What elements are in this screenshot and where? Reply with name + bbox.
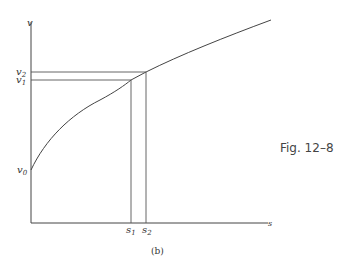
v-s-curve (31, 20, 271, 170)
s1-label: s1 (126, 224, 136, 237)
s2-label: s2 (142, 224, 152, 237)
x-axis-label: s (268, 219, 272, 228)
subfigure-caption: (b) (151, 246, 164, 256)
v0-label: v0 (17, 164, 28, 177)
velocity-position-diagram: v s v2 v1 v0 s1 s2 (b) Fig. 12–8 (0, 0, 337, 274)
figure-label: Fig. 12–8 (280, 141, 334, 155)
y-axis-label: v (27, 17, 33, 28)
